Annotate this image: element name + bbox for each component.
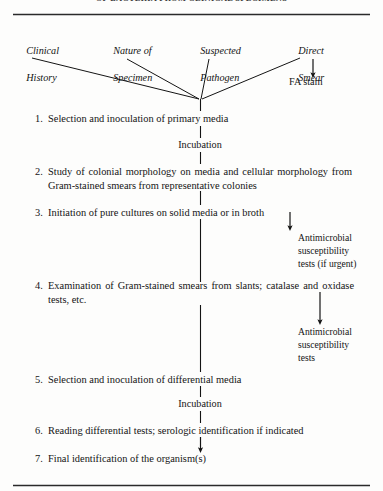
source-nature-of-specimen: Nature of Specimen — [103, 31, 152, 97]
step-4-text: Examination of Gram-stained smears from … — [48, 279, 354, 306]
branch-antimicrobial-susceptibility: Antimicrobial susceptibility tests — [298, 326, 352, 365]
step-6-number: 6. — [35, 424, 43, 438]
step-5-text: Selection and inoculation of differentia… — [48, 373, 335, 387]
step-3-text: Initiation of pure cultures on solid med… — [48, 206, 335, 220]
step-6: 6. Reading differential tests; serologic… — [35, 424, 355, 438]
source-suspected-pathogen: Suspected Pathogen — [190, 31, 241, 97]
source-nature-of-specimen-line1: Nature of — [113, 45, 151, 56]
step-6-text: Reading differential tests; serologic id… — [48, 424, 355, 438]
step-7-text: Final identification of the organism(s) — [48, 452, 335, 466]
fa-stain-label: FA stain — [289, 76, 323, 88]
step-1: 1. Selection and inoculation of primary … — [35, 112, 335, 126]
running-head: OF BACTERIA FROM CLINICAL SPECIMENS — [0, 0, 383, 3]
step-1-number: 1. — [35, 112, 43, 126]
source-clinical-history-line1: Clinical — [26, 45, 59, 56]
source-suspected-pathogen-line1: Suspected — [200, 45, 241, 56]
source-direct-smear-line1: Direct — [298, 45, 324, 56]
source-suspected-pathogen-line2: Pathogen — [200, 72, 239, 83]
branch-antimicrobial-susceptibility-if-urgent: Antimicrobial susceptibility tests (if u… — [298, 232, 356, 271]
incubation-label-1: Incubation — [150, 139, 250, 151]
step-3: 3. Initiation of pure cultures on solid … — [35, 206, 335, 220]
step-3-number: 3. — [35, 206, 43, 220]
step-2: 2. Study of colonial morphology on media… — [35, 165, 352, 192]
flowchart-page: OF BACTERIA FROM CLINICAL SPECIMENS — [0, 0, 383, 491]
source-clinical-history: Clinical History — [16, 31, 59, 97]
step-5: 5. Selection and inoculation of differen… — [35, 373, 335, 387]
step-2-number: 2. — [35, 165, 43, 179]
incubation-label-2: Incubation — [150, 398, 250, 410]
step-1-text: Selection and inoculation of primary med… — [48, 112, 335, 126]
step-4-number: 4. — [35, 279, 43, 293]
step-4: 4. Examination of Gram-stained smears fr… — [35, 279, 354, 306]
step-7: 7. Final identification of the organism(… — [35, 452, 335, 466]
step-7-number: 7. — [35, 452, 43, 466]
step-2-text: Study of colonial morphology on media an… — [48, 165, 352, 192]
source-nature-of-specimen-line2: Specimen — [113, 72, 152, 83]
source-clinical-history-line2: History — [26, 72, 57, 83]
step-5-number: 5. — [35, 373, 43, 387]
